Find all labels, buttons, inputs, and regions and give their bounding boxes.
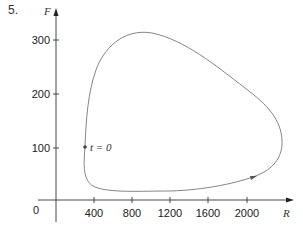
start-annotation: t = 0	[90, 141, 112, 153]
x-tick-1200: 1200	[158, 207, 182, 219]
start-point	[83, 145, 87, 149]
y-tick-300: 300	[32, 34, 50, 46]
y-axis-label: F	[43, 5, 51, 17]
y-axis-arrow-icon	[54, 8, 59, 16]
origin-label: 0	[33, 204, 39, 216]
y-tick-100: 100	[32, 142, 50, 154]
axes	[38, 12, 290, 222]
direction-arrow-icon	[250, 176, 257, 180]
x-axis-arrow-icon	[286, 198, 294, 203]
trajectory-curve	[84, 32, 282, 191]
y-tick-200: 200	[32, 88, 50, 100]
phase-plot: F R 300 200 100 0 400 800 1200 1600 2000…	[0, 0, 303, 230]
x-tick-1600: 1600	[196, 207, 220, 219]
x-tick-800: 800	[123, 207, 141, 219]
x-tick-2000: 2000	[235, 207, 259, 219]
x-tick-400: 400	[85, 207, 103, 219]
x-axis-label: R	[282, 207, 290, 219]
